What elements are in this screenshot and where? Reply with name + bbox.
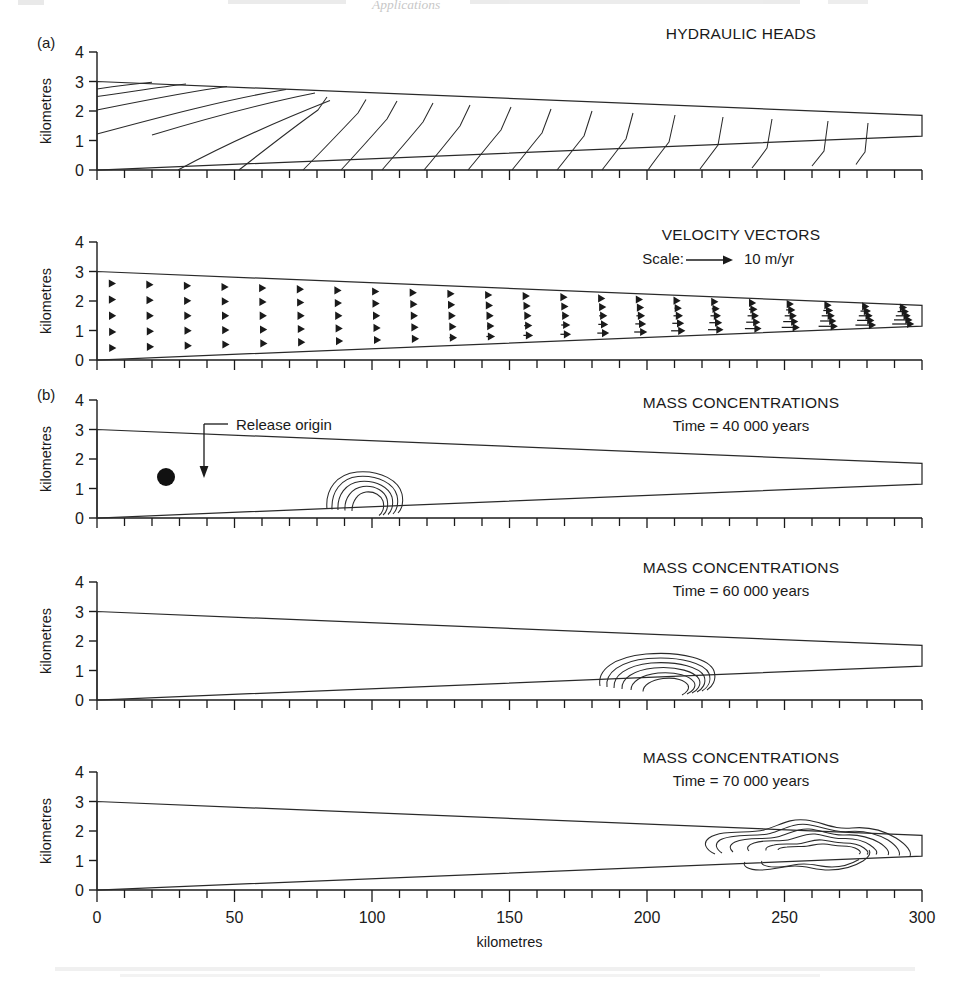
y-tick-panel5-1: 1 (75, 853, 84, 870)
mass-60k-subtitle: Time = 60 000 years (673, 582, 810, 599)
y-axis-label-panel2: kilometres (38, 268, 54, 334)
x-tick-150: 150 (496, 909, 523, 926)
release-origin-marker (157, 468, 175, 486)
y-tick-panel1-1: 1 (75, 133, 84, 150)
figure-container: Applications (a) HYDRAULIC HEADS 4 3 2 1… (0, 0, 971, 987)
x-tick-100: 100 (359, 909, 386, 926)
y-tick-panel1-0: 0 (75, 162, 84, 179)
y-tick-panel4-3: 3 (75, 604, 84, 621)
y-axis-label-panel4: kilometres (38, 608, 54, 674)
mass-70k-title: MASS CONCENTRATIONS (643, 749, 839, 766)
panel-b-letter: (b) (37, 386, 55, 403)
y-tick-panel2-0: 0 (75, 352, 84, 369)
y-tick-panel5-0: 0 (75, 882, 84, 899)
y-tick-panel4-0: 0 (75, 692, 84, 709)
velocity-vectors-title: VELOCITY VECTORS (662, 226, 821, 243)
y-tick-panel4-4: 4 (75, 574, 84, 591)
release-origin-label: Release origin (236, 416, 332, 433)
x-tick-50: 50 (226, 909, 244, 926)
y-axis-label-panel3: kilometres (38, 426, 54, 492)
y-tick-panel1-3: 3 (75, 74, 84, 91)
y-tick-panel1-4: 4 (75, 44, 84, 61)
y-tick-panel3-1: 1 (75, 481, 84, 498)
y-tick-panel1-2: 2 (75, 103, 84, 120)
y-axis-label-panel1: kilometres (38, 78, 54, 144)
x-tick-250: 250 (771, 909, 798, 926)
hydraulic-heads-title: HYDRAULIC HEADS (666, 25, 816, 42)
y-axis-label-panel5: kilometres (38, 798, 54, 864)
y-tick-panel5-3: 3 (75, 794, 84, 811)
y-tick-panel5-4: 4 (75, 764, 84, 781)
x-tick-0: 0 (93, 909, 102, 926)
y-tick-panel2-2: 2 (75, 293, 84, 310)
mass-40k-subtitle: Time = 40 000 years (673, 417, 810, 434)
mass-70k-subtitle: Time = 70 000 years (673, 772, 810, 789)
y-tick-panel4-1: 1 (75, 663, 84, 680)
y-tick-panel2-3: 3 (75, 264, 84, 281)
y-tick-panel2-4: 4 (75, 234, 84, 251)
y-tick-panel3-3: 3 (75, 422, 84, 439)
x-tick-300: 300 (909, 909, 936, 926)
panel-a-letter: (a) (37, 34, 55, 51)
x-axis-label: kilometres (476, 934, 542, 950)
mass-60k-title: MASS CONCENTRATIONS (643, 559, 839, 576)
x-tick-200: 200 (634, 909, 661, 926)
y-tick-panel2-1: 1 (75, 323, 84, 340)
figure-svg: Applications (a) HYDRAULIC HEADS 4 3 2 1… (0, 0, 971, 987)
velocity-scale-value: 10 m/yr (744, 250, 794, 267)
y-tick-panel4-2: 2 (75, 633, 84, 650)
mass-40k-title: MASS CONCENTRATIONS (643, 394, 839, 411)
y-tick-panel3-4: 4 (75, 392, 84, 409)
y-tick-panel5-2: 2 (75, 823, 84, 840)
velocity-scale-label: Scale: (642, 250, 684, 267)
y-tick-panel3-2: 2 (75, 451, 84, 468)
header-italic-remnant: Applications (371, 0, 440, 12)
y-tick-panel3-0: 0 (75, 510, 84, 527)
